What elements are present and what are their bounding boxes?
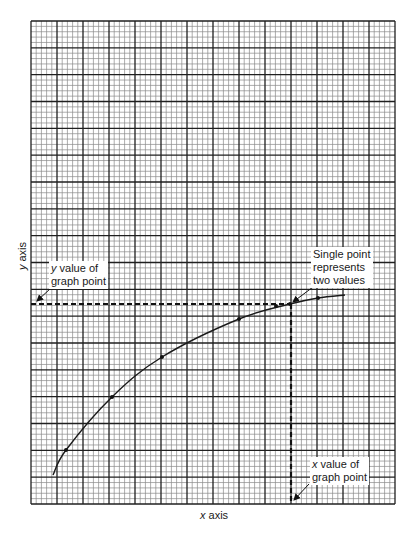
annotation-text: value of	[318, 458, 360, 470]
x-value-annotation: x value of graph point	[310, 457, 369, 485]
x-axis-label-text: axis	[206, 509, 229, 521]
x-axis-label: x axis	[200, 509, 228, 521]
data-point-marker	[110, 395, 114, 399]
y-axis-var: y	[16, 265, 28, 271]
annotation-line: graph point	[312, 471, 367, 484]
annotation-line: x value of	[312, 458, 367, 471]
annotation-line: Single point	[313, 248, 371, 261]
data-point-marker	[160, 355, 164, 359]
data-point-marker	[274, 304, 278, 308]
annotation-line: two values	[313, 274, 371, 287]
data-point-marker	[316, 296, 320, 300]
data-point-marker	[237, 317, 241, 321]
annotation-line: graph point	[51, 275, 106, 288]
y-axis-label: y axis	[16, 238, 28, 274]
annotation-text: value of	[57, 262, 99, 274]
y-value-annotation: y value of graph point	[49, 261, 108, 289]
data-point-marker	[288, 302, 292, 306]
single-point-annotation: Single point represents two values	[311, 247, 373, 288]
data-point-marker	[64, 448, 68, 452]
annotation-line: represents	[313, 261, 371, 274]
annotation-line: y value of	[51, 262, 106, 275]
y-axis-label-text: axis	[16, 242, 28, 265]
annotation-arrows	[37, 287, 313, 500]
